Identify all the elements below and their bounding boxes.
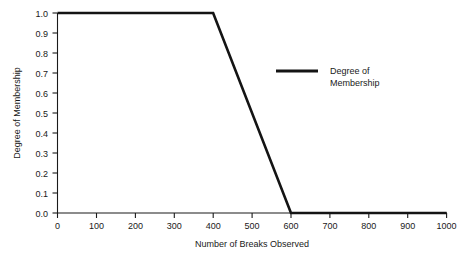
x-tick-label: 700 bbox=[322, 221, 337, 231]
y-tick-label: 0.8 bbox=[35, 49, 48, 59]
membership-function-chart: 1.0 0.9 0.8 0.7 0.6 0.5 0.4 0.3 0.2 0.1 … bbox=[0, 0, 472, 260]
x-tick-label: 200 bbox=[128, 221, 143, 231]
x-tick-label: 900 bbox=[400, 221, 415, 231]
y-axis-title: Degree of Membership bbox=[12, 67, 22, 159]
y-tick-label: 1.0 bbox=[35, 9, 48, 19]
x-tick-label: 300 bbox=[167, 221, 182, 231]
x-tick-label: 800 bbox=[361, 221, 376, 231]
y-tick-label: 0.6 bbox=[35, 89, 48, 99]
y-tick-label: 0.4 bbox=[35, 129, 48, 139]
y-tick-label: 0.9 bbox=[35, 29, 48, 39]
y-tick-label: 0.1 bbox=[35, 189, 48, 199]
legend-label-line1: Degree of bbox=[330, 66, 370, 76]
y-tick-label: 0.0 bbox=[35, 209, 48, 219]
x-tick-label: 0 bbox=[55, 221, 60, 231]
x-tick-label: 100 bbox=[89, 221, 104, 231]
x-tick-label: 1000 bbox=[437, 221, 457, 231]
chart-figure: 1.0 0.9 0.8 0.7 0.6 0.5 0.4 0.3 0.2 0.1 … bbox=[0, 0, 472, 260]
y-tick-label: 0.7 bbox=[35, 69, 48, 79]
x-tick-label: 400 bbox=[206, 221, 221, 231]
legend-label-line2: Membership bbox=[330, 78, 380, 88]
x-tick-label: 500 bbox=[245, 221, 260, 231]
x-tick-label: 600 bbox=[283, 221, 298, 231]
x-axis-title: Number of Breaks Observed bbox=[195, 239, 309, 249]
y-tick-label: 0.5 bbox=[35, 109, 48, 119]
y-tick-label: 0.3 bbox=[35, 149, 48, 159]
y-tick-label: 0.2 bbox=[35, 169, 48, 179]
